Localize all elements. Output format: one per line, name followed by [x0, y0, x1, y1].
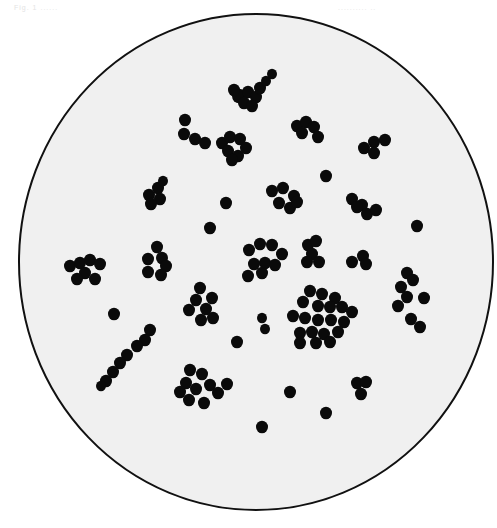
coccus: [355, 388, 367, 401]
coccus: [71, 273, 83, 286]
coccus: [198, 397, 210, 410]
coccus: [273, 197, 285, 210]
coccus: [184, 364, 196, 377]
coccus: [220, 197, 232, 210]
microscope-field: [0, 0, 497, 528]
coccus: [142, 266, 154, 279]
coccus: [277, 182, 289, 195]
coccus: [260, 324, 270, 335]
coccus: [246, 100, 258, 113]
coccus: [287, 310, 299, 323]
coccus: [199, 137, 211, 150]
coccus: [392, 300, 404, 313]
coccus: [320, 407, 332, 420]
coccus: [368, 147, 380, 160]
coccus: [155, 269, 167, 282]
coccus: [131, 340, 143, 353]
coccus: [320, 170, 332, 183]
coccus: [145, 198, 157, 211]
coccus: [257, 313, 267, 324]
coccus: [301, 256, 313, 269]
coccus: [96, 381, 106, 392]
coccus: [108, 308, 120, 321]
coccus: [310, 235, 322, 248]
coccus: [178, 128, 190, 141]
coccus: [89, 273, 101, 286]
coccus: [418, 292, 430, 305]
coccus: [346, 306, 358, 319]
coccus: [284, 386, 296, 399]
coccus: [183, 304, 195, 317]
coccus: [411, 220, 423, 233]
coccus: [360, 258, 372, 271]
coccus: [228, 84, 240, 97]
coccus: [351, 201, 363, 214]
coccus: [346, 256, 358, 269]
coccus: [291, 196, 303, 209]
coccus: [142, 253, 154, 266]
coccus: [254, 238, 266, 251]
coccus: [414, 321, 426, 334]
coccus: [306, 326, 318, 339]
coccus: [204, 222, 216, 235]
coccus: [407, 274, 419, 287]
coccus: [243, 244, 255, 257]
coccus: [174, 386, 186, 399]
coccus: [158, 176, 168, 187]
coccus: [231, 336, 243, 349]
coccus: [316, 288, 328, 301]
coccus: [294, 337, 306, 350]
coccus: [313, 256, 325, 269]
coccus: [190, 383, 202, 396]
coccus: [296, 127, 308, 140]
coccus: [276, 248, 288, 261]
coccus: [240, 142, 252, 155]
coccus: [267, 69, 277, 80]
coccus: [94, 258, 106, 271]
coccus: [379, 134, 391, 147]
coccus: [312, 300, 324, 313]
coccus: [297, 296, 309, 309]
coccus: [194, 282, 206, 295]
coccus: [312, 131, 324, 144]
coccus: [151, 241, 163, 254]
coccus: [401, 291, 413, 304]
coccus: [325, 314, 337, 327]
coccus: [310, 337, 322, 350]
coccus: [207, 312, 219, 325]
coccus: [179, 114, 191, 127]
coccus: [332, 326, 344, 339]
coccus: [312, 314, 324, 327]
coccus: [266, 185, 278, 198]
coccus: [206, 292, 218, 305]
coccus: [266, 239, 278, 252]
coccus: [370, 204, 382, 217]
coccus: [256, 267, 268, 280]
coccus: [360, 376, 372, 389]
coccus: [224, 131, 236, 144]
coccus: [299, 312, 311, 325]
coccus: [195, 314, 207, 327]
coccus: [221, 378, 233, 391]
coccus: [324, 301, 336, 314]
coccus: [196, 368, 208, 381]
coccus: [324, 336, 336, 349]
coccus: [226, 154, 238, 167]
coccus: [368, 136, 380, 149]
coccus: [269, 259, 281, 272]
coccus: [256, 421, 268, 434]
coccus: [212, 387, 224, 400]
coccus: [190, 294, 202, 307]
coccus: [242, 270, 254, 283]
coccus: [304, 285, 316, 298]
